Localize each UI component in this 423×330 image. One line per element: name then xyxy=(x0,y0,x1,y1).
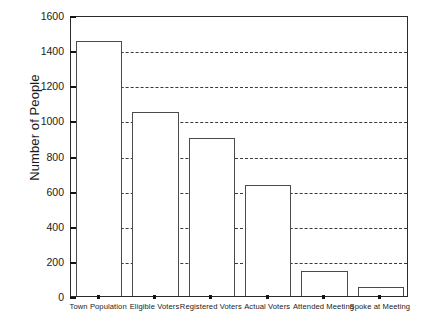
x-tick-label: Attended Meeting xyxy=(293,302,354,311)
y-tick-label-1400: 1400 xyxy=(22,46,64,57)
x-tick-label: Actual Voters xyxy=(244,302,290,311)
x-tick-mark xyxy=(378,295,381,299)
y-tick-mark-1400 xyxy=(70,51,76,53)
bar xyxy=(189,138,235,296)
x-tick-mark xyxy=(97,295,100,299)
x-tick-label: Spoke at Meeting xyxy=(349,302,410,311)
x-tick-label: Registered Voters xyxy=(180,302,242,311)
y-tick-label-1000: 1000 xyxy=(22,116,64,127)
y-tick-label-200: 200 xyxy=(22,257,64,268)
x-tick-mark xyxy=(153,295,156,299)
x-tick-label: Eligible Voters xyxy=(130,302,180,311)
x-tick-label: Town Population xyxy=(70,302,127,311)
y-tick-label-0: 0 xyxy=(22,292,64,303)
y-tick-mark-800 xyxy=(70,157,76,159)
x-tick-mark xyxy=(209,295,212,299)
x-tick-mark xyxy=(322,295,325,299)
y-tick-mark-400 xyxy=(70,227,76,229)
y-tick-mark-200 xyxy=(70,262,76,264)
y-tick-label-800: 800 xyxy=(22,152,64,163)
y-tick-mark-1000 xyxy=(70,121,76,123)
x-tick-mark xyxy=(266,295,269,299)
y-axis-tick-labels: 02004006008001000120014001600 xyxy=(16,16,64,297)
bar xyxy=(301,271,347,296)
bar-chart: Number of People 02004006008001000120014… xyxy=(0,0,423,330)
y-tick-mark-1600 xyxy=(70,16,76,18)
y-tick-mark-600 xyxy=(70,192,76,194)
bar xyxy=(132,112,178,296)
plot-area xyxy=(70,16,408,297)
bar xyxy=(245,185,291,296)
bar xyxy=(76,41,122,296)
y-tick-mark-0 xyxy=(70,297,76,299)
y-tick-label-1600: 1600 xyxy=(22,11,64,22)
y-tick-label-1200: 1200 xyxy=(22,81,64,92)
y-tick-label-400: 400 xyxy=(22,222,64,233)
y-tick-mark-1200 xyxy=(70,86,76,88)
y-tick-label-600: 600 xyxy=(22,187,64,198)
